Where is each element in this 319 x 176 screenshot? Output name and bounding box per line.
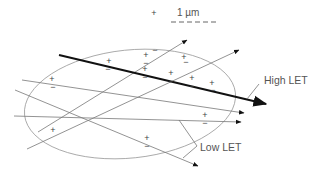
negative-ion-sign: − bbox=[202, 119, 207, 128]
low-let-track-2 bbox=[27, 50, 239, 149]
high-let-track bbox=[59, 55, 266, 104]
positive-ion-sign: + bbox=[151, 9, 156, 18]
high-let-label: High LET bbox=[264, 75, 308, 86]
negative-ion-sign: − bbox=[183, 58, 188, 67]
negative-ion-sign: − bbox=[144, 142, 149, 151]
negative-ion-sign: − bbox=[105, 65, 110, 74]
scale-bar-label: 1 µm bbox=[177, 8, 199, 18]
low-let-label: Low LET bbox=[200, 142, 241, 153]
let-track-diagram bbox=[0, 0, 319, 176]
negative-ion-sign: − bbox=[210, 86, 215, 95]
high-let-leader bbox=[247, 84, 259, 99]
positive-ion-sign: + bbox=[50, 126, 55, 135]
low-let-leader bbox=[179, 120, 197, 158]
negative-ion-sign: − bbox=[142, 73, 147, 82]
negative-ion-sign: − bbox=[168, 77, 173, 86]
negative-ion-sign: − bbox=[189, 82, 194, 91]
negative-ion-sign: − bbox=[152, 46, 157, 55]
negative-ion-sign: − bbox=[50, 83, 55, 92]
low-let-track-5 bbox=[15, 90, 198, 166]
